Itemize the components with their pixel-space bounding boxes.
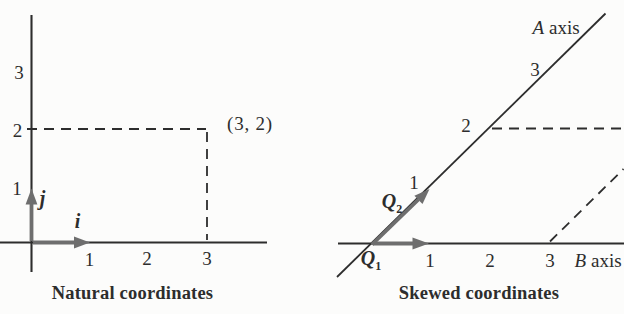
q1-subscript: 1 <box>375 259 381 273</box>
q1-vector-arrowhead-icon <box>413 237 430 249</box>
b-axis-letter: B <box>574 250 586 271</box>
a-axis-label: Aaxis <box>532 17 579 36</box>
q2-letter: Q <box>382 190 396 212</box>
a-axis-letter: A <box>532 16 544 37</box>
b-axis-label: Baxis <box>574 251 621 270</box>
skewed-a-tick-2: 2 <box>461 116 471 135</box>
q2-subscript: 2 <box>396 202 402 216</box>
q1-vector-label: Q1 <box>361 248 381 268</box>
skewed-b-tick-3: 3 <box>545 251 555 270</box>
natural-y-tick-3: 3 <box>14 62 24 81</box>
natural-x-tick-2: 2 <box>142 249 152 268</box>
skewed-coordinates-caption: Skewed coordinates <box>399 284 559 303</box>
skewed-a-tick-3: 3 <box>530 60 540 79</box>
natural-y-tick-1: 1 <box>12 179 22 198</box>
q1-letter: Q <box>361 247 375 269</box>
natural-x-tick-3: 3 <box>202 248 212 267</box>
natural-y-tick-2: 2 <box>13 121 23 140</box>
natural-x-tick-1: 1 <box>85 250 95 269</box>
b-axis-word: axis <box>591 250 622 271</box>
skewed-b-tick-2: 2 <box>485 251 495 270</box>
j-vector-label: j <box>40 188 46 208</box>
natural-coordinates-caption: Natural coordinates <box>52 284 214 303</box>
skewed-dashed-diagonal-line <box>550 169 624 242</box>
a-axis-word: axis <box>549 16 580 37</box>
coordinate-systems-figure: 3 2 1 1 2 3 (3, 2) i j Natural coordinat… <box>0 0 624 314</box>
i-vector-label: i <box>75 211 81 231</box>
skewed-b-tick-1: 1 <box>425 251 435 270</box>
skewed-a-tick-1: 1 <box>409 173 419 192</box>
q2-vector-label: Q2 <box>382 191 402 211</box>
j-vector-arrowhead-icon <box>26 189 38 205</box>
point-label: (3, 2) <box>227 113 273 132</box>
i-vector-arrowhead-icon <box>74 237 90 249</box>
